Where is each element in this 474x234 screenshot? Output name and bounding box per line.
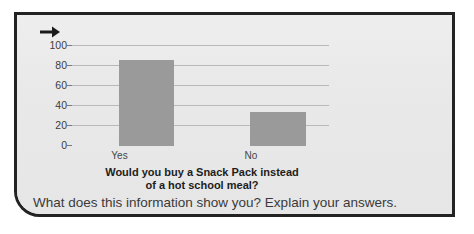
y-tick-label: 100 xyxy=(37,40,67,51)
worksheet-page: 100 80 60 40 20 0 Yes xyxy=(0,0,474,234)
y-tick-label: 20 xyxy=(37,120,67,131)
bar-chart: 100 80 60 40 20 0 Yes xyxy=(17,15,458,220)
plot-area xyxy=(72,45,329,146)
chart-title: Would you buy a Snack Pack instead of a … xyxy=(37,166,367,193)
bar-yes[interactable] xyxy=(119,60,174,146)
chart-title-line1: Would you buy a Snack Pack instead xyxy=(37,166,367,179)
worksheet-panel: 100 80 60 40 20 0 Yes xyxy=(14,12,455,217)
x-tick-label-no: No xyxy=(223,151,279,161)
y-tick-label: 80 xyxy=(37,60,67,71)
y-tick-label: 40 xyxy=(37,100,67,111)
chart-title-line2: of a hot school meal? xyxy=(37,179,367,192)
gridline xyxy=(72,105,329,106)
y-tick-label: 60 xyxy=(37,80,67,91)
gridline xyxy=(72,65,329,66)
gridline xyxy=(72,45,329,46)
gridline xyxy=(72,85,329,86)
bar-no[interactable] xyxy=(250,112,306,146)
x-tick-label-yes: Yes xyxy=(92,151,147,161)
question-text: What does this information show you? Exp… xyxy=(33,195,445,211)
y-tick-label: 0 xyxy=(37,140,67,151)
